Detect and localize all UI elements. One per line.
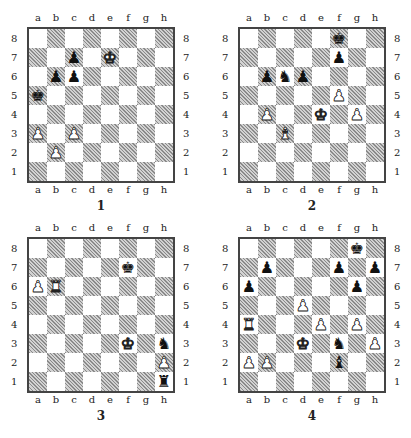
- file-label: b: [258, 184, 276, 195]
- black-king-icon: ♚: [121, 258, 135, 277]
- square-f1: [119, 372, 137, 391]
- black-pawn-icon: ♟: [368, 258, 382, 277]
- square-g1: [348, 162, 366, 181]
- rank-label: 3: [394, 334, 400, 353]
- rank-label: 1: [394, 372, 400, 391]
- square-f1: [119, 162, 137, 181]
- square-d6: ♟: [294, 67, 312, 86]
- square-a6: ♟: [240, 277, 258, 296]
- square-c3: ♝: [276, 124, 294, 143]
- square-f7: ♟: [330, 258, 348, 277]
- black-pawn-icon: ♟: [260, 258, 274, 277]
- square-b7: [47, 258, 65, 277]
- black-pawn-icon: ♟: [67, 67, 81, 86]
- square-a7: [240, 258, 258, 277]
- file-label: d: [83, 12, 101, 23]
- square-c1: [276, 372, 294, 391]
- square-c8: [276, 239, 294, 258]
- square-b4: [258, 315, 276, 334]
- file-label: d: [83, 222, 101, 233]
- square-d2: [83, 353, 101, 372]
- square-a3: [240, 334, 258, 353]
- file-label: e: [101, 222, 119, 233]
- square-d7: [83, 258, 101, 277]
- square-e4: [101, 315, 119, 334]
- square-b7: [258, 48, 276, 67]
- square-h8: [366, 239, 384, 258]
- square-b5: [258, 296, 276, 315]
- file-label: g: [348, 394, 366, 405]
- square-g7: [348, 258, 366, 277]
- square-h3: ♞: [155, 334, 173, 353]
- diagram-caption: 2: [302, 199, 322, 213]
- square-f8: ♚: [330, 29, 348, 48]
- square-c7: [276, 48, 294, 67]
- white-rook-icon: ♜: [49, 277, 63, 296]
- square-g1: [137, 372, 155, 391]
- square-a7: [29, 48, 47, 67]
- square-f8: [119, 29, 137, 48]
- rank-label: 6: [222, 67, 228, 86]
- rank-labels-left: 87654321: [222, 29, 228, 181]
- square-d2: [83, 143, 101, 162]
- square-b1: [47, 162, 65, 181]
- square-f6: [330, 67, 348, 86]
- rank-label: 5: [394, 296, 400, 315]
- square-b8: [47, 29, 65, 48]
- file-label: h: [155, 222, 173, 233]
- black-pawn-icon: ♟: [67, 48, 81, 67]
- square-a5: [240, 296, 258, 315]
- square-e1: [312, 162, 330, 181]
- white-king-icon: ♚: [296, 334, 310, 353]
- square-h5: [155, 86, 173, 105]
- square-b1: [47, 372, 65, 391]
- square-g8: [348, 29, 366, 48]
- rank-label: 4: [394, 315, 400, 334]
- square-a3: ♟: [29, 124, 47, 143]
- square-f2: [119, 353, 137, 372]
- diagram-4: abcdefghabcdefgh8765432187654321♚♟♟♟♟♟♟♜…: [0, 0, 411, 438]
- square-f3: ♞: [330, 334, 348, 353]
- file-label: a: [240, 12, 258, 23]
- square-c5: [65, 86, 83, 105]
- white-pawn-icon: ♟: [31, 124, 45, 143]
- square-g3: [137, 124, 155, 143]
- square-d5: [83, 296, 101, 315]
- rank-label: 1: [222, 372, 228, 391]
- square-a8: [29, 29, 47, 48]
- rank-label: 1: [11, 372, 17, 391]
- rank-label: 2: [222, 143, 228, 162]
- file-label: h: [155, 184, 173, 195]
- square-g4: [137, 105, 155, 124]
- file-label: d: [294, 184, 312, 195]
- square-c7: [276, 258, 294, 277]
- rank-label: 2: [222, 353, 228, 372]
- square-h7: [366, 48, 384, 67]
- file-label: g: [348, 184, 366, 195]
- square-b2: [47, 353, 65, 372]
- square-d5: ♟: [294, 296, 312, 315]
- square-c7: [65, 258, 83, 277]
- square-h2: [366, 353, 384, 372]
- diagram-caption: 3: [91, 409, 111, 423]
- square-d2: [294, 143, 312, 162]
- square-e7: ♚: [101, 48, 119, 67]
- rank-label: 5: [11, 86, 17, 105]
- white-king-icon: ♚: [103, 48, 117, 67]
- rank-label: 5: [222, 296, 228, 315]
- black-bishop-icon: ♝: [332, 353, 346, 372]
- square-f2: ♝: [330, 353, 348, 372]
- square-d6: [294, 277, 312, 296]
- square-e5: [312, 296, 330, 315]
- file-label: e: [101, 184, 119, 195]
- file-labels-top: abcdefgh: [240, 222, 384, 233]
- rank-label: 1: [222, 162, 228, 181]
- black-knight-icon: ♞: [332, 334, 346, 353]
- square-b6: ♟: [47, 67, 65, 86]
- square-c4: [65, 315, 83, 334]
- square-g2: [348, 143, 366, 162]
- square-b5: [258, 86, 276, 105]
- square-a4: [29, 105, 47, 124]
- square-e8: [312, 239, 330, 258]
- file-label: c: [65, 222, 83, 233]
